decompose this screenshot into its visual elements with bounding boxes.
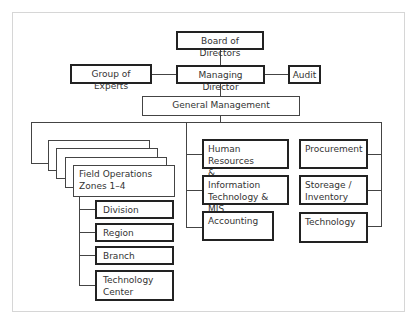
tech-center-line2: Center xyxy=(103,286,166,298)
connector-right-stor xyxy=(367,190,382,191)
connector-left-field xyxy=(31,163,48,164)
bus-line xyxy=(31,122,382,123)
connector-middle-hr xyxy=(186,154,202,155)
hr-line1: Human Resources xyxy=(208,143,283,167)
managing-director-box: Managing Director xyxy=(176,65,265,84)
division-label: Division xyxy=(103,205,139,215)
procurement-box: Procurement xyxy=(299,139,368,169)
procurement-line1: Procurement xyxy=(305,143,362,155)
branch-label: Branch xyxy=(103,251,135,261)
connector-region xyxy=(79,232,95,233)
storage-inventory-box: Storeage / Inventory xyxy=(299,175,368,205)
connector-experts-md xyxy=(151,74,176,75)
connector-right-drop xyxy=(381,122,382,227)
hr-admin-box: Human Resources & Administration xyxy=(202,139,289,169)
connector-branch xyxy=(79,255,95,256)
connector-division xyxy=(79,209,95,210)
technology-line1: Technology xyxy=(305,216,362,228)
field-ops-line1: Field Operations xyxy=(79,168,169,180)
gm-label: General Management xyxy=(172,100,270,110)
connector-middle-acc xyxy=(186,227,202,228)
division-box: Division xyxy=(95,200,174,219)
connector-right-proc xyxy=(367,154,382,155)
board-of-directors-box: Board of Directors xyxy=(176,31,264,50)
group-of-experts-box: Group of Experts xyxy=(70,64,152,84)
it-mis-box: Information Technology & MIS xyxy=(202,175,289,205)
storage-line1: Storeage / xyxy=(305,179,362,191)
connector-gm-bus xyxy=(220,115,221,122)
md-label: Managing Director xyxy=(198,70,242,92)
accounting-line1: Accounting xyxy=(208,215,268,227)
branch-box: Branch xyxy=(95,246,174,265)
region-label: Region xyxy=(103,228,134,238)
connector-techcenter xyxy=(79,285,95,286)
connector-middle-it xyxy=(186,190,202,191)
tech-center-line1: Technology xyxy=(103,274,166,286)
connector-middle-drop xyxy=(186,122,187,228)
storage-line2: Inventory xyxy=(305,191,362,203)
connector-left-drop xyxy=(31,122,32,164)
board-label: Board of Directors xyxy=(200,36,241,58)
audit-label: Audit xyxy=(293,70,317,80)
audit-box: Audit xyxy=(288,65,321,84)
connector-right-tech xyxy=(367,226,382,227)
connector-md-audit xyxy=(264,74,288,75)
general-management-box: General Management xyxy=(142,96,300,116)
experts-label: Group of Experts xyxy=(92,69,131,91)
field-ops-line2: Zones 1–4 xyxy=(79,180,169,192)
field-operations-box: Field Operations Zones 1–4 xyxy=(73,165,175,197)
region-box: Region xyxy=(95,223,174,242)
technology-box: Technology xyxy=(299,212,368,243)
it-line1: Information xyxy=(208,179,283,191)
accounting-box: Accounting xyxy=(202,211,274,241)
technology-center-box: Technology Center xyxy=(95,270,174,301)
